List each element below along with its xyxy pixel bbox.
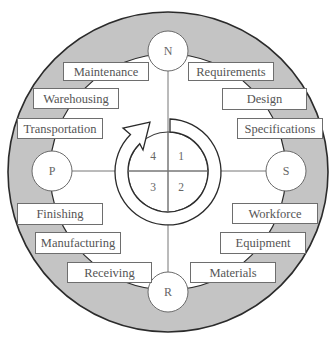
quadrant-4: 4 xyxy=(150,150,156,162)
quadrant-3: 3 xyxy=(150,181,156,193)
svg-text:Maintenance: Maintenance xyxy=(74,65,139,79)
label-specifications: Specifications xyxy=(238,119,323,139)
node-p: P xyxy=(32,151,72,191)
svg-text:P: P xyxy=(49,164,56,178)
cycle-diagram: 1 2 3 4 N S R P Maintenance Warehousing … xyxy=(0,0,336,344)
label-maintenance: Maintenance xyxy=(64,63,149,81)
svg-text:Specifications: Specifications xyxy=(245,122,316,136)
svg-text:S: S xyxy=(283,164,290,178)
label-transportation: Transportation xyxy=(18,119,103,139)
svg-text:Finishing: Finishing xyxy=(36,207,84,221)
node-r: R xyxy=(148,272,188,312)
svg-text:Equipment: Equipment xyxy=(236,236,291,250)
svg-text:Design: Design xyxy=(247,92,283,106)
svg-text:Manufacturing: Manufacturing xyxy=(41,236,116,250)
quadrant-2: 2 xyxy=(178,181,184,193)
label-finishing: Finishing xyxy=(18,204,103,225)
svg-text:Requirements: Requirements xyxy=(196,65,266,79)
svg-text:Workforce: Workforce xyxy=(248,207,302,221)
quadrant-1: 1 xyxy=(178,150,184,162)
label-equipment: Equipment xyxy=(221,233,306,254)
svg-text:Transportation: Transportation xyxy=(23,122,97,136)
node-n: N xyxy=(148,31,188,71)
svg-text:Warehousing: Warehousing xyxy=(43,92,109,106)
svg-text:N: N xyxy=(164,44,173,58)
label-design: Design xyxy=(223,89,307,110)
node-s: S xyxy=(266,151,306,191)
label-workforce: Workforce xyxy=(233,204,318,224)
label-warehousing: Warehousing xyxy=(34,89,119,109)
label-receiving: Receiving xyxy=(68,263,152,283)
svg-text:Materials: Materials xyxy=(209,266,256,280)
svg-text:R: R xyxy=(164,285,172,299)
label-materials: Materials xyxy=(191,263,276,283)
svg-text:Receiving: Receiving xyxy=(84,266,135,280)
label-requirements: Requirements xyxy=(189,63,274,81)
label-manufacturing: Manufacturing xyxy=(36,233,121,254)
